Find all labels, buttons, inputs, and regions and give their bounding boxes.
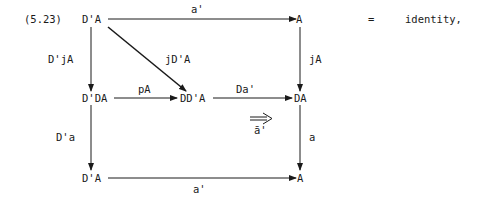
double-arrow-icon xyxy=(250,113,272,124)
label-left-upper-arrow: D'jA xyxy=(48,53,73,65)
node-top-left: D'A xyxy=(82,13,101,25)
label-right-upper-arrow: jA xyxy=(309,53,322,65)
label-mid-left-arrow: pA xyxy=(138,83,151,95)
node-top-right: A xyxy=(296,13,302,25)
equals-sign: = xyxy=(368,13,374,25)
label-left-lower-arrow: D'a xyxy=(56,131,75,143)
node-mid-right: DA xyxy=(294,92,307,104)
node-bottom-right: A xyxy=(297,172,303,184)
label-bottom-arrow: a' xyxy=(193,183,206,195)
commutative-diagram: (5.23) D'A A D'DA DD'A DA D'A A a' jD'A … xyxy=(0,0,489,198)
node-bottom-left: D'A xyxy=(82,172,101,184)
node-mid-center: DD'A xyxy=(180,92,205,104)
label-top-arrow: a' xyxy=(191,3,204,15)
arrow-layer xyxy=(0,0,489,198)
node-mid-left: D'DA xyxy=(82,92,107,104)
label-diagonal-arrow: jD'A xyxy=(165,53,190,65)
label-two-cell: ā' xyxy=(254,124,267,136)
result-text: identity, xyxy=(405,13,462,25)
equation-number: (5.23) xyxy=(24,13,62,25)
label-right-lower-arrow: a xyxy=(309,131,315,143)
label-mid-right-arrow: Da' xyxy=(236,83,255,95)
